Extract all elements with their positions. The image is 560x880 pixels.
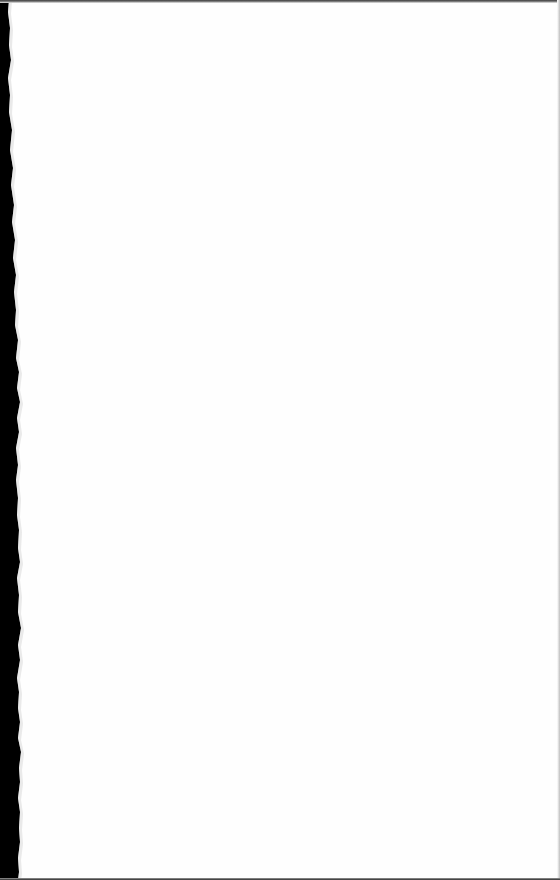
top-scan-border [0, 0, 560, 3]
torn-left-edge [0, 0, 30, 880]
scanned-page [0, 0, 560, 880]
blank-paper-area [20, 3, 557, 878]
